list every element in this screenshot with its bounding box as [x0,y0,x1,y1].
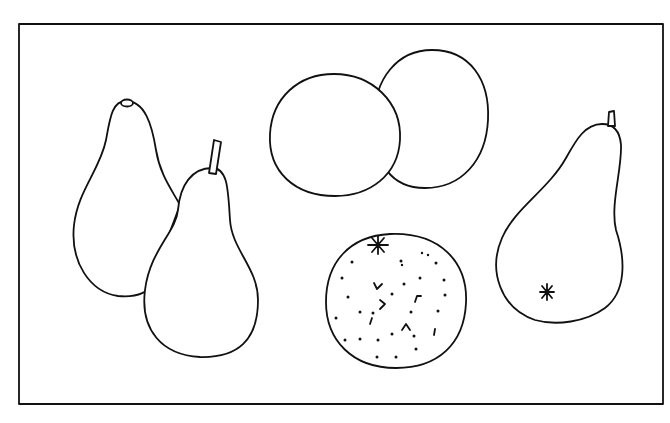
orange-dotted [326,234,466,368]
pear-stem [209,140,221,174]
still-life-drawing [0,0,670,423]
pear-right [496,111,622,323]
pear-stem [608,111,615,126]
pear-stem-nub [121,100,133,107]
blossom-star-icon [540,284,554,300]
orange-plain-left [270,74,400,196]
